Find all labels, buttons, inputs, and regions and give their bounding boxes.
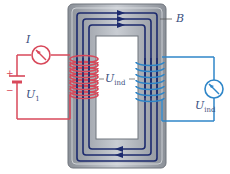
minus-sign: − [6, 86, 14, 95]
induced-voltage-right-label: Uind [195, 100, 216, 114]
ammeter-icon [32, 46, 50, 64]
primary-voltage-label: U1 [26, 89, 40, 103]
induced-voltage-center-label: Uind [105, 73, 126, 87]
plus-sign: + [6, 69, 14, 78]
magnetic-field-label: B [176, 13, 184, 24]
voltmeter-icon [205, 80, 223, 98]
current-label: I [26, 34, 30, 45]
